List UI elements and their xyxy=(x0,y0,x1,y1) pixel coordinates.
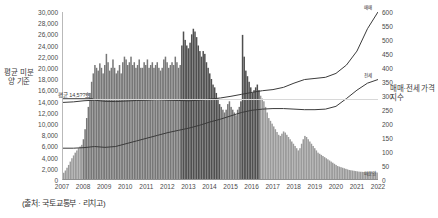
right-tick-label: 250 xyxy=(382,107,412,114)
right-tick-label: 50 xyxy=(382,163,412,170)
left-tick-label: 10,000 xyxy=(2,121,58,128)
right-tick-label: 150 xyxy=(382,135,412,142)
x-tick-label: 2017 xyxy=(265,183,279,190)
left-tick-label: 20,000 xyxy=(2,65,58,72)
average-gridline xyxy=(63,99,378,100)
right-tick-label: 0 xyxy=(382,177,412,184)
right-tick-label: 450 xyxy=(382,51,412,58)
x-tick-label: 2020 xyxy=(329,183,343,190)
left-tick-label: 8,000 xyxy=(2,132,58,139)
right-tick-label: 400 xyxy=(382,65,412,72)
x-axis-ticks: 2007200820092010201120122013201420152016… xyxy=(62,183,378,195)
left-tick-label: 22,000 xyxy=(2,53,58,60)
x-tick-label: 2019 xyxy=(308,183,322,190)
line-series-sale xyxy=(63,12,378,102)
right-tick-label: 550 xyxy=(382,23,412,30)
series-label-bars: 미분양 xyxy=(364,170,376,176)
left-tick-label: 26,000 xyxy=(2,31,58,38)
right-tick-label: 350 xyxy=(382,79,412,86)
x-tick-label: 2013 xyxy=(181,183,195,190)
right-tick-label: 300 xyxy=(382,93,412,100)
series-label-sale: 매매 xyxy=(364,4,372,10)
x-tick-label: 2014 xyxy=(202,183,216,190)
x-tick-label: 2021 xyxy=(350,183,364,190)
average-annotation-label: 평균 14,5??호 xyxy=(58,91,90,99)
right-tick-label: 600 xyxy=(382,9,412,16)
source-note: (출처: 국토교통부 · 리치고) xyxy=(22,197,105,208)
left-tick-label: 2,000 xyxy=(2,165,58,172)
plot-inner xyxy=(63,12,378,179)
left-tick-label: 12,000 xyxy=(2,109,58,116)
right-axis-ticks: 600550500450400350300250200150100500 xyxy=(382,12,416,180)
x-tick-label: 2016 xyxy=(244,183,258,190)
right-tick-label: 500 xyxy=(382,37,412,44)
x-tick-label: 2010 xyxy=(118,183,132,190)
x-tick-label: 2015 xyxy=(223,183,237,190)
x-tick-label: 2011 xyxy=(139,183,153,190)
x-tick-label: 2012 xyxy=(160,183,174,190)
x-tick-label: 2022 xyxy=(371,183,385,190)
series-label-jeonse: 전세 xyxy=(364,72,372,78)
x-tick-label: 2007 xyxy=(55,183,69,190)
x-tick-label: 2018 xyxy=(286,183,300,190)
left-tick-label: 6,000 xyxy=(2,143,58,150)
left-tick-label: 24,000 xyxy=(2,42,58,49)
left-tick-label: 4,000 xyxy=(2,154,58,161)
left-tick-label: 0 xyxy=(2,177,58,184)
left-tick-label: 14,000 xyxy=(2,98,58,105)
lines-layer xyxy=(63,12,378,179)
left-tick-label: 18,000 xyxy=(2,76,58,83)
right-tick-label: 100 xyxy=(382,149,412,156)
line-series-jeonse xyxy=(63,80,378,149)
left-tick-label: 28,000 xyxy=(2,20,58,27)
left-tick-label: 30,000 xyxy=(2,9,58,16)
x-tick-label: 2008 xyxy=(76,183,90,190)
left-axis-ticks: 30,00028,00026,00024,00022,00020,00018,0… xyxy=(0,12,58,180)
left-tick-label: 16,000 xyxy=(2,87,58,94)
chart-figure: 평균 미분양 기준 매매·전세 가격지수 30,00028,00026,0002… xyxy=(0,0,438,218)
plot-area xyxy=(62,12,378,180)
x-tick-label: 2009 xyxy=(97,183,111,190)
right-tick-label: 200 xyxy=(382,121,412,128)
